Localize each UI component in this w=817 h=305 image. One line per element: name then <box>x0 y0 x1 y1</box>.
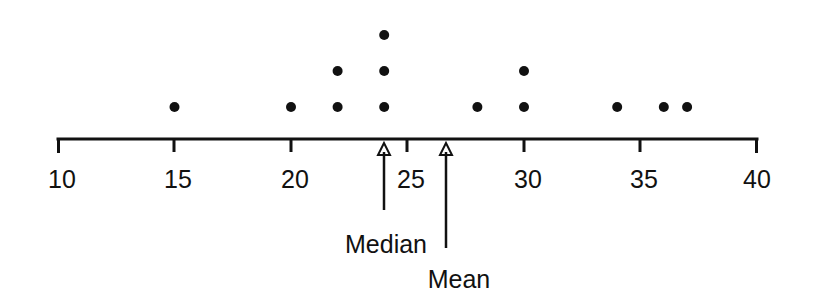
data-dot <box>472 102 482 112</box>
dot-stack-37 <box>682 102 692 112</box>
data-dot <box>659 102 669 112</box>
data-dot <box>379 102 389 112</box>
dot-stack-28 <box>472 102 482 112</box>
tick-label-30: 30 <box>514 165 542 193</box>
chart-background <box>0 0 817 305</box>
tick-label-10: 10 <box>48 165 76 193</box>
dot-stack-34 <box>612 102 622 112</box>
dot-stack-15 <box>170 102 180 112</box>
data-dot <box>333 66 343 76</box>
median-label: Median <box>345 230 427 258</box>
data-dot <box>286 102 296 112</box>
mean-label: Mean <box>428 265 491 293</box>
data-dot <box>519 66 529 76</box>
data-dot <box>170 102 180 112</box>
data-dot <box>379 30 389 40</box>
dot-plot-svg: 10 15 20 25 30 35 40 Median Mean <box>0 0 817 305</box>
tick-label-20: 20 <box>281 165 309 193</box>
tick-label-35: 35 <box>630 165 658 193</box>
tick-label-40: 40 <box>743 165 771 193</box>
data-dot <box>333 102 343 112</box>
data-dot <box>519 102 529 112</box>
dot-stack-20 <box>286 102 296 112</box>
dot-stack-36 <box>659 102 669 112</box>
data-dot <box>612 102 622 112</box>
data-dot <box>682 102 692 112</box>
tick-label-25: 25 <box>397 165 425 193</box>
data-dot <box>379 66 389 76</box>
tick-label-15: 15 <box>164 165 192 193</box>
